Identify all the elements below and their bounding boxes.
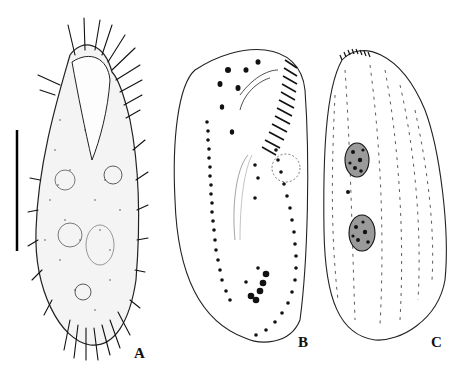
illustration-canvas [0, 0, 462, 377]
panel-label-c: C [431, 334, 442, 351]
panel-c-cell [324, 49, 447, 340]
micronucleus [346, 190, 350, 194]
panel-label-b: B [298, 334, 308, 351]
panel-a-cell [28, 18, 148, 360]
figure-plate: A B C [0, 0, 462, 377]
panel-label-a: A [134, 345, 145, 362]
panel-b-cell [174, 50, 307, 342]
